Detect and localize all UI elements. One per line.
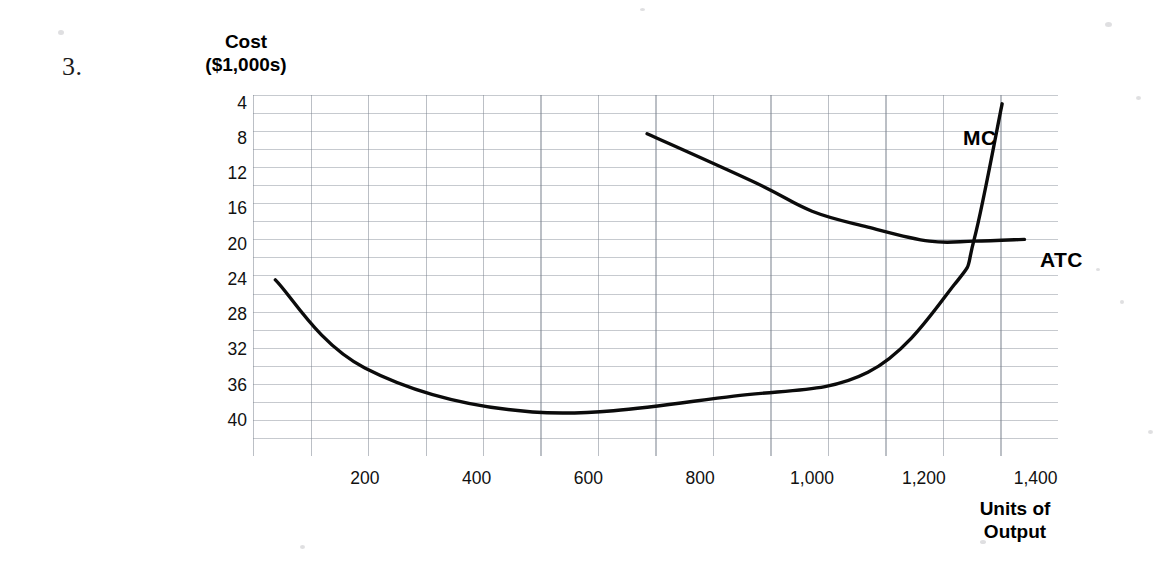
scan-speckle — [58, 30, 64, 35]
y-axis-tick-label: 36 — [199, 377, 247, 395]
x-axis-title-line1: Units of — [940, 498, 1090, 521]
scan-speckle — [1136, 96, 1141, 100]
y-axis-tick-label: 16 — [199, 200, 247, 218]
y-axis-tick-label: 24 — [199, 271, 247, 289]
y-axis-tick-label: 40 — [199, 412, 247, 430]
scan-speckle — [1105, 22, 1112, 27]
y-axis-title-line2: ($1,000s) — [186, 53, 306, 76]
x-axis-tick-label: 600 — [543, 470, 633, 488]
mc-curve — [275, 104, 1002, 413]
x-axis-title: Units of Output — [940, 498, 1090, 544]
y-axis-tick-label: 8 — [199, 130, 247, 148]
mc-curve-label: MC — [963, 126, 996, 150]
x-axis-tick-label: 800 — [655, 470, 745, 488]
x-axis-tick-label: 400 — [432, 470, 522, 488]
y-axis-tick-labels: 403632282420161284 — [195, 95, 247, 456]
plot-area — [253, 95, 1058, 456]
atc-curve-label: ATC — [1040, 248, 1083, 272]
y-axis-title-line1: Cost — [186, 30, 306, 53]
atc-curve — [647, 134, 1024, 243]
worksheet-page: 3. Cost ($1,000s) 403632282420161284 200… — [0, 0, 1167, 573]
y-axis-tick-label: 32 — [199, 341, 247, 359]
question-number: 3. — [62, 52, 83, 82]
scan-speckle — [300, 545, 305, 549]
curve-layer — [253, 95, 1058, 456]
x-axis-tick-label: 1,200 — [879, 470, 969, 488]
y-axis-title: Cost ($1,000s) — [186, 30, 306, 76]
x-axis-title-line2: Output — [940, 521, 1090, 544]
x-axis-tick-labels: 2004006008001,0001,2001,400 — [253, 470, 1063, 496]
y-axis-tick-label: 28 — [199, 306, 247, 324]
scan-speckle — [1148, 430, 1153, 434]
x-axis-tick-label: 1,000 — [767, 470, 857, 488]
y-axis-tick-label: 4 — [199, 95, 247, 113]
scan-speckle — [1096, 268, 1100, 271]
x-axis-tick-label: 1,400 — [991, 470, 1081, 488]
scan-speckle — [640, 8, 645, 11]
y-axis-tick-label: 20 — [199, 236, 247, 254]
scan-speckle — [1120, 300, 1124, 304]
x-axis-tick-label: 200 — [320, 470, 410, 488]
y-axis-tick-label: 12 — [199, 165, 247, 183]
